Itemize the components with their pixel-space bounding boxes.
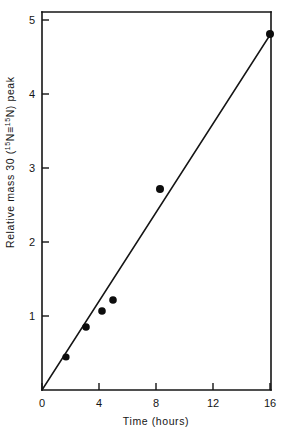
data-point	[266, 30, 274, 38]
y-tick-label-2: 2	[29, 236, 35, 248]
y-axis-title-n1: N≡	[4, 126, 16, 141]
x-tick-label-8: 8	[153, 397, 159, 409]
chart-figure: 5 4 3 2 1 0 4 8 12 16 Time (hours) Relat…	[0, 0, 284, 431]
y-tick-label-5: 5	[29, 14, 35, 26]
data-point	[82, 323, 90, 331]
svg-text:Relative mass 30 (15N≡15N): Relative mass 30 (15N≡15N) peak	[4, 76, 16, 248]
y-tick-label-3: 3	[29, 162, 35, 174]
x-axis-title: Time (hours)	[123, 415, 189, 427]
data-point	[62, 353, 69, 360]
y-tick-label-4: 4	[29, 88, 35, 100]
x-tick-label-16: 16	[264, 397, 276, 409]
data-point	[98, 307, 106, 315]
scatter-plot: 5 4 3 2 1 0 4 8 12 16 Time (hours) Relat…	[0, 0, 284, 431]
data-point	[156, 185, 164, 193]
y-axis-title: Relative mass 30 (15N≡15N) peak	[4, 76, 16, 248]
x-tick-label-12: 12	[207, 397, 219, 409]
data-point	[109, 296, 117, 304]
y-axis-title-sup-2: 15	[4, 117, 11, 126]
y-axis-title-prefix: Relative mass 30 (	[4, 150, 16, 248]
regression-line	[42, 35, 270, 390]
y-axis-title-n2: N) peak	[4, 76, 16, 117]
y-tick-label-1: 1	[29, 310, 35, 322]
y-axis-title-sup-1: 15	[4, 141, 11, 150]
x-tick-label-0: 0	[39, 397, 45, 409]
x-tick-label-4: 4	[96, 397, 102, 409]
